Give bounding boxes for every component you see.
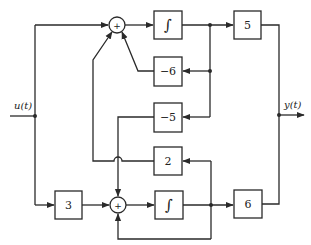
svg-text:+: + xyxy=(114,201,122,211)
top-integrator-block: ∫ xyxy=(154,11,182,39)
output-combine-wire xyxy=(261,25,279,204)
bottom-integrator-block: ∫ xyxy=(155,191,183,219)
svg-text:−5: −5 xyxy=(160,111,176,124)
svg-text:5: 5 xyxy=(244,19,251,32)
top-summing-junction: + xyxy=(109,17,125,33)
gain-neg6-block: −6 xyxy=(154,57,182,86)
gain-6-block: 6 xyxy=(234,190,262,218)
svg-text:3: 3 xyxy=(65,199,72,212)
gain-2-block: 2 xyxy=(154,147,182,175)
block-diagram: u(t) + ∫ 5 −6 −5 2 xyxy=(0,0,311,245)
integral-icon: ∫ xyxy=(165,196,173,214)
gain-5-block: 5 xyxy=(234,11,261,39)
svg-text:−6: −6 xyxy=(160,65,176,78)
integral-icon: ∫ xyxy=(164,16,172,34)
gain-neg6-to-top-sum-wire xyxy=(122,32,154,71)
svg-text:+: + xyxy=(113,21,121,31)
svg-text:2: 2 xyxy=(165,155,172,168)
input-wire xyxy=(10,25,37,205)
input-label: u(t) xyxy=(14,100,32,111)
svg-text:6: 6 xyxy=(245,198,252,211)
output-label: y(t) xyxy=(283,99,302,110)
bottom-summing-junction: + xyxy=(110,197,126,213)
gain-2-to-top-sum-wire xyxy=(93,32,154,161)
gain-3-block: 3 xyxy=(55,191,82,219)
gain-neg5-to-bottom-sum-wire xyxy=(118,117,154,196)
gain-neg5-block: −5 xyxy=(154,103,182,132)
